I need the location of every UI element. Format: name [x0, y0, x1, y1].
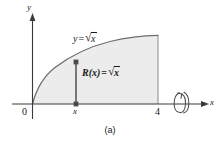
figure-caption: (a): [0, 126, 220, 135]
x-axis-label: x: [210, 98, 214, 107]
curve-equation-label: y=√x: [73, 32, 97, 44]
radical-sign-icon: √: [85, 32, 91, 44]
y-axis-arrowhead-icon: [30, 13, 36, 21]
y-axis-label: y: [27, 3, 31, 12]
curve-equation-sqrt: √x: [85, 32, 96, 44]
figure-container: y x 0 x 4 y=√x R(x)=√x (a): [0, 0, 220, 144]
radius-equation-lhs: R(x): [82, 67, 100, 78]
radius-equation-operator: =: [100, 67, 108, 78]
x-axis-arrowhead-icon: [201, 101, 209, 107]
radius-segment-top-dot: [74, 60, 79, 65]
origin-label: 0: [22, 107, 27, 117]
x-tick-label-x: x: [73, 107, 77, 116]
curve-equation-operator: =: [77, 33, 85, 44]
radius-equation-label: R(x)=√x: [82, 66, 120, 78]
x-tick-label-4: 4: [155, 107, 160, 117]
radical-sign-icon: √: [108, 66, 114, 78]
radius-equation-sqrt: √x: [108, 66, 120, 78]
revolution-loop-icon: [174, 92, 189, 113]
